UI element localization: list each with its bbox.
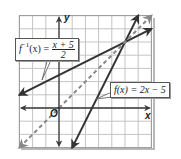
inverse-fraction: x + 5 2 <box>52 40 75 59</box>
coordinate-plane <box>0 0 181 159</box>
inverse-arg: (x) = <box>29 43 49 54</box>
inverse-denominator: 2 <box>52 50 75 59</box>
graph-figure: y x O f−1(x) = x + 5 2 f(x) = 2x − 5 <box>0 0 181 159</box>
origin-label: O <box>50 108 58 119</box>
function-equation: f(x) = 2x − 5 <box>114 84 166 95</box>
inverse-function-label: f−1(x) = x + 5 2 <box>15 38 79 61</box>
x-axis-label: x <box>145 110 151 121</box>
function-label: f(x) = 2x − 5 <box>110 82 170 98</box>
y-axis-label: y <box>64 12 70 23</box>
